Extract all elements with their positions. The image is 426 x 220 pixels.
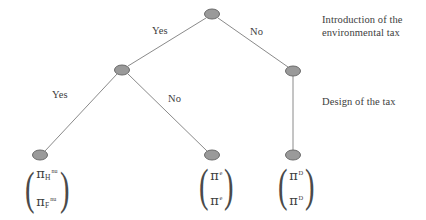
- pi-symbol: π: [289, 193, 298, 208]
- payoff-vector-middle: ( πe πe ): [196, 163, 237, 209]
- stage-label-design: Design of the tax: [322, 95, 396, 108]
- node-root[interactable]: [205, 9, 220, 19]
- stage-label-introduction: Introduction of the environmental tax: [322, 13, 403, 39]
- payoff-vector-left: ( πHnu πFnu ): [22, 163, 72, 214]
- pi-symbol: π: [210, 193, 219, 208]
- tree-edges: [45, 18, 293, 151]
- payoff-left-row2: πFnu: [36, 193, 57, 212]
- paren-open-icon: (: [25, 163, 35, 214]
- edge-label-root-no: No: [250, 26, 263, 37]
- payoff-vector-right: ( πD πD ): [275, 163, 318, 209]
- pi-symbol: π: [36, 194, 45, 209]
- paren-open-icon: (: [278, 163, 288, 209]
- pi-symbol: π: [289, 168, 298, 183]
- pi-superscript: nu: [52, 168, 58, 174]
- pi-subscript: F: [45, 201, 49, 210]
- paren-close-icon: ): [305, 163, 315, 209]
- edge-label-second-no: No: [168, 93, 181, 104]
- pi-superscript: nu: [50, 196, 56, 202]
- decision-tree-figure: Yes No Yes No Introduction of the enviro…: [0, 0, 426, 220]
- payoff-right-row2: πD: [289, 191, 303, 207]
- edge-label-root-yes: Yes: [152, 25, 168, 36]
- payoff-left-row1: πHnu: [36, 165, 57, 184]
- node-leaf-right[interactable]: [286, 150, 301, 160]
- payoff-middle-row1: πe: [210, 166, 222, 182]
- pi-symbol: π: [36, 166, 45, 181]
- pi-superscript: D: [298, 194, 303, 201]
- paren-close-icon: ): [224, 163, 234, 209]
- edge-left-internal-to-leaf-left: [45, 74, 117, 151]
- edge-left-internal-to-leaf-middle: [128, 74, 207, 151]
- node-left-internal[interactable]: [115, 65, 130, 75]
- pi-superscript: e: [219, 169, 222, 176]
- paren-open-icon: (: [199, 163, 209, 209]
- pi-superscript: e: [219, 194, 222, 201]
- node-leaf-middle[interactable]: [205, 150, 220, 160]
- edge-label-second-yes: Yes: [52, 89, 68, 100]
- pi-symbol: π: [210, 168, 219, 183]
- pi-subscript: H: [45, 173, 51, 182]
- paren-close-icon: ): [59, 163, 69, 214]
- node-leaf-left[interactable]: [33, 150, 48, 160]
- node-right-internal[interactable]: [286, 66, 301, 76]
- payoff-middle-row2: πe: [210, 191, 222, 207]
- pi-superscript: D: [298, 169, 303, 176]
- payoff-right-row1: πD: [289, 166, 303, 182]
